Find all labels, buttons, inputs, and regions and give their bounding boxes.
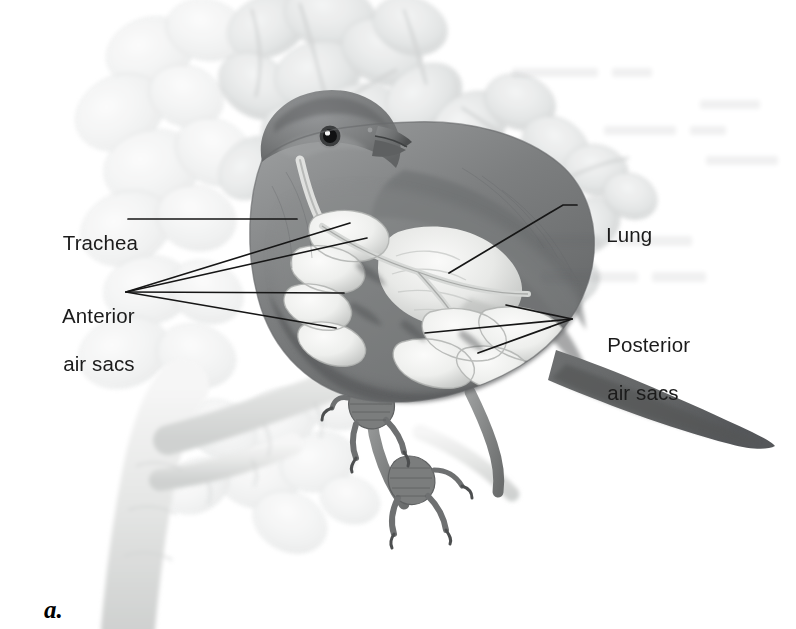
- label-trachea-line1: Trachea: [63, 231, 138, 254]
- anterior-leader-3: [126, 292, 344, 293]
- label-lung-line1: Lung: [606, 223, 652, 246]
- label-anterior-air-sacs: Anterior air sacs: [40, 280, 135, 400]
- eye: [319, 125, 342, 148]
- label-posterior-line2: air sacs: [607, 381, 678, 404]
- nostril: [368, 128, 373, 133]
- label-trachea: Trachea: [40, 207, 138, 279]
- label-anterior-line1: Anterior: [62, 304, 135, 327]
- panel-letter: a.: [44, 596, 63, 624]
- label-lung: Lung: [583, 199, 652, 271]
- label-anterior-line2: air sacs: [63, 352, 134, 375]
- label-posterior-air-sacs: Posterior air sacs: [584, 309, 690, 429]
- bird-respiratory-figure: Trachea Anterior air sacs Lung Posterior…: [0, 0, 796, 629]
- label-posterior-line1: Posterior: [607, 333, 690, 356]
